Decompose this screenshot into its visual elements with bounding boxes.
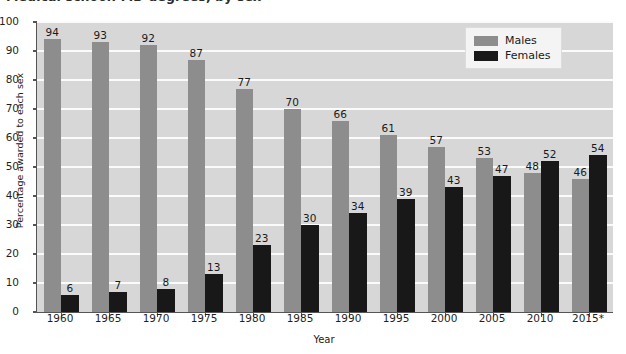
- bar-females-1970[interactable]: 8: [157, 289, 175, 312]
- bar-value-label: 46: [574, 166, 587, 178]
- bar-group: 946: [44, 22, 79, 312]
- bar-value-label: 7: [114, 279, 121, 291]
- y-axis-tick-mark: [33, 253, 37, 254]
- legend-label-females: Females: [505, 49, 551, 62]
- y-axis-tick-mark: [33, 195, 37, 196]
- y-axis-tick-label: 20: [0, 247, 19, 259]
- bar-value-label: 54: [591, 142, 604, 154]
- x-axis-tick-label-2005: 2005: [479, 312, 506, 324]
- bar-group: 5743: [428, 22, 463, 312]
- bar-value-label: 53: [478, 145, 491, 157]
- y-axis-tick-mark: [33, 50, 37, 51]
- bar-males-1960[interactable]: 94: [44, 39, 62, 312]
- x-axis-tick-label-1995: 1995: [383, 312, 410, 324]
- y-axis-tick-label: 50: [0, 160, 19, 172]
- bar-value-label: 93: [94, 29, 107, 41]
- bar-value-label: 70: [286, 96, 299, 108]
- chart-title: Medical school: MD degrees, by sex: [6, 0, 261, 4]
- y-axis-tick-label: 100: [0, 15, 19, 27]
- y-axis-tick-label: 40: [0, 189, 19, 201]
- x-axis-title: Year: [36, 334, 612, 345]
- bar-group: 937: [92, 22, 127, 312]
- bar-value-label: 94: [46, 26, 59, 38]
- y-axis-tick-mark: [33, 282, 37, 283]
- bar-value-label: 43: [447, 174, 460, 186]
- bar-value-label: 8: [162, 276, 169, 288]
- x-axis-tick-label-1975: 1975: [191, 312, 218, 324]
- bar-value-label: 39: [399, 186, 412, 198]
- bar-females-1995[interactable]: 39: [397, 199, 415, 312]
- chart-figure: Medical school: MD degrees, by sex Perce…: [0, 0, 626, 354]
- bar-group: 6139: [380, 22, 415, 312]
- bar-group: 4654: [572, 22, 607, 312]
- y-axis-tick-mark: [33, 137, 37, 138]
- x-axis-tick-label-2010: 2010: [527, 312, 554, 324]
- bar-value-label: 48: [526, 160, 539, 172]
- bar-value-label: 66: [334, 108, 347, 120]
- bar-value-label: 30: [303, 212, 316, 224]
- bar-group: 8713: [188, 22, 223, 312]
- bar-group: 6634: [332, 22, 367, 312]
- bar-females-2010[interactable]: 52: [541, 161, 559, 312]
- bar-males-1990[interactable]: 66: [332, 121, 350, 312]
- x-axis-tick-label-2000: 2000: [431, 312, 458, 324]
- y-axis-tick-label: 60: [0, 131, 19, 143]
- y-axis-tick-label: 70: [0, 102, 19, 114]
- bar-females-1965[interactable]: 7: [109, 292, 127, 312]
- x-axis-tick-label-2015: 2015*: [572, 312, 604, 324]
- bar-value-label: 87: [190, 47, 203, 59]
- x-axis-tick-label-1960: 1960: [47, 312, 74, 324]
- bar-females-1975[interactable]: 13: [205, 274, 223, 312]
- bar-value-label: 77: [238, 76, 251, 88]
- bar-males-1970[interactable]: 92: [140, 45, 158, 312]
- bar-value-label: 57: [430, 134, 443, 146]
- bar-group: 7723: [236, 22, 271, 312]
- y-axis-tick-label: 0: [0, 305, 19, 317]
- legend-label-males: Males: [505, 34, 537, 47]
- bar-females-1985[interactable]: 30: [301, 225, 319, 312]
- x-axis-tick-label-1965: 1965: [95, 312, 122, 324]
- bar-males-1980[interactable]: 77: [236, 89, 254, 312]
- bar-males-2005[interactable]: 53: [476, 158, 494, 312]
- y-axis-tick-mark: [33, 224, 37, 225]
- bar-value-label: 47: [495, 163, 508, 175]
- bar-group: 928: [140, 22, 175, 312]
- x-axis-tick-label-1980: 1980: [239, 312, 266, 324]
- y-axis-tick-mark: [33, 166, 37, 167]
- bar-females-1990[interactable]: 34: [349, 213, 367, 312]
- bar-males-2000[interactable]: 57: [428, 147, 446, 312]
- bar-value-label: 6: [66, 282, 73, 294]
- bar-females-2005[interactable]: 47: [493, 176, 511, 312]
- bar-value-label: 52: [543, 148, 556, 160]
- y-axis-tick-label: 80: [0, 73, 19, 85]
- x-axis-tick-label-1985: 1985: [287, 312, 314, 324]
- y-axis-tick-label: 10: [0, 276, 19, 288]
- y-axis-title: Percentage awarded to each sex: [14, 36, 25, 266]
- x-axis-tick-label-1990: 1990: [335, 312, 362, 324]
- bar-females-2000[interactable]: 43: [445, 187, 463, 312]
- bar-females-2015[interactable]: 54: [589, 155, 607, 312]
- bar-males-2015[interactable]: 46: [572, 179, 590, 312]
- chart-legend: Males Females: [465, 27, 562, 69]
- bar-group: 7030: [284, 22, 319, 312]
- y-axis-tick-mark: [33, 108, 37, 109]
- bar-value-label: 23: [255, 232, 268, 244]
- bar-males-1975[interactable]: 87: [188, 60, 206, 312]
- legend-item-females: Females: [474, 48, 551, 63]
- bar-females-1980[interactable]: 23: [253, 245, 271, 312]
- bar-males-1985[interactable]: 70: [284, 109, 302, 312]
- y-axis-tick-mark: [33, 21, 37, 22]
- bar-females-1960[interactable]: 6: [61, 295, 79, 312]
- bar-value-label: 34: [351, 200, 364, 212]
- y-axis-tick-label: 30: [0, 218, 19, 230]
- x-axis-tick-label-1970: 1970: [143, 312, 170, 324]
- bar-males-2010[interactable]: 48: [524, 173, 542, 312]
- bar-value-label: 13: [207, 261, 220, 273]
- legend-swatch-males-icon: [474, 36, 498, 46]
- y-axis-tick-label: 90: [0, 44, 19, 56]
- bar-males-1965[interactable]: 93: [92, 42, 110, 312]
- bar-value-label: 61: [382, 122, 395, 134]
- legend-item-males: Males: [474, 33, 551, 48]
- bar-males-1995[interactable]: 61: [380, 135, 398, 312]
- legend-swatch-females-icon: [474, 51, 498, 61]
